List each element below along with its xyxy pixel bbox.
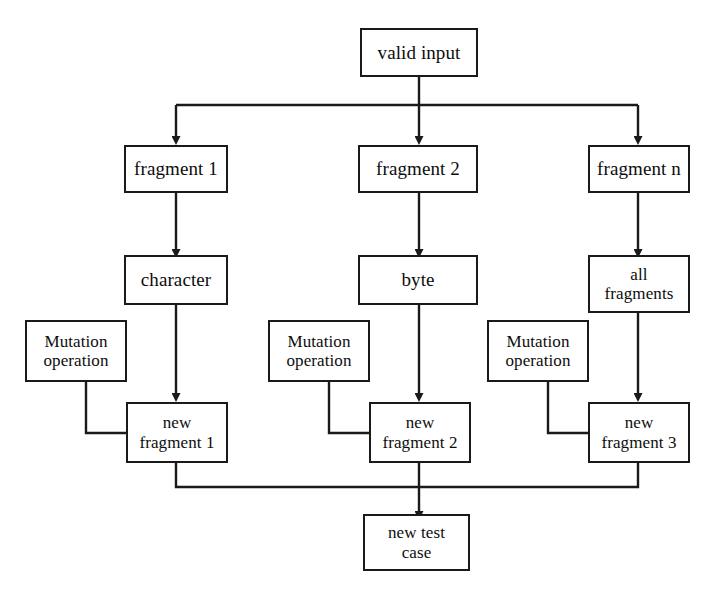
node-fragment-1-label: fragment 1	[130, 158, 222, 179]
node-character-label: character	[137, 269, 216, 290]
node-new-fragment-2-label-line1: new	[378, 413, 461, 432]
edge-mutation-1-to-new-fragment-1	[86, 382, 126, 433]
node-mutation-operation-2-label: Mutation operation	[278, 332, 359, 370]
node-new-fragment-2-label-line2: fragment 2	[378, 433, 461, 452]
node-mutation-operation-3-label: Mutation operation	[497, 332, 578, 370]
edge-new-fragment-1-to-collector	[176, 463, 419, 487]
node-all-fragments[interactable]: all fragments	[588, 255, 690, 313]
node-mutation-operation-1-label-line2: operation	[39, 351, 112, 370]
node-mutation-operation-3-label-line1: Mutation	[501, 332, 574, 351]
node-new-test-case-label: new test case	[380, 523, 453, 561]
flowchart-diagram: valid input fragment 1 fragment 2 fragme…	[0, 0, 714, 597]
node-mutation-operation-2-label-line2: operation	[282, 351, 355, 370]
node-new-fragment-1-label-line1: new	[135, 413, 218, 432]
node-valid-input[interactable]: valid input	[360, 28, 478, 77]
edge-new-fragment-3-to-collector	[419, 463, 638, 487]
node-new-fragment-2-label: new fragment 2	[374, 413, 465, 451]
node-new-fragment-3-label: new fragment 3	[593, 413, 684, 451]
node-valid-input-label: valid input	[374, 42, 465, 63]
node-fragment-1[interactable]: fragment 1	[124, 145, 228, 193]
node-new-test-case-label-line1: new test	[384, 523, 449, 542]
edge-mutation-2-to-new-fragment-2	[329, 382, 369, 433]
node-new-fragment-1-label-line2: fragment 1	[135, 433, 218, 452]
node-new-fragment-1-label: new fragment 1	[131, 413, 222, 451]
node-mutation-operation-2-label-line1: Mutation	[282, 332, 355, 351]
node-mutation-operation-3-label-line2: operation	[501, 351, 574, 370]
node-mutation-operation-3[interactable]: Mutation operation	[487, 320, 589, 382]
node-all-fragments-label-line1: all	[601, 265, 678, 284]
node-mutation-operation-1-label-line1: Mutation	[39, 332, 112, 351]
node-byte[interactable]: byte	[358, 255, 478, 305]
node-byte-label: byte	[397, 269, 438, 290]
node-fragment-n-label: fragment n	[593, 158, 685, 179]
node-mutation-operation-1[interactable]: Mutation operation	[25, 320, 127, 382]
node-new-test-case-label-line2: case	[384, 543, 449, 562]
node-mutation-operation-2[interactable]: Mutation operation	[268, 320, 370, 382]
node-new-fragment-3-label-line1: new	[597, 413, 680, 432]
node-mutation-operation-1-label: Mutation operation	[35, 332, 116, 370]
node-fragment-2[interactable]: fragment 2	[358, 145, 478, 193]
node-new-test-case[interactable]: new test case	[363, 514, 470, 571]
edge-mutation-3-to-new-fragment-3	[548, 382, 588, 433]
node-all-fragments-label-line2: fragments	[601, 284, 678, 303]
node-new-fragment-2[interactable]: new fragment 2	[369, 402, 471, 463]
node-new-fragment-3-label-line2: fragment 3	[597, 433, 680, 452]
node-new-fragment-3[interactable]: new fragment 3	[588, 402, 690, 463]
node-fragment-2-label: fragment 2	[372, 158, 464, 179]
node-new-fragment-1[interactable]: new fragment 1	[126, 402, 228, 463]
node-character[interactable]: character	[124, 255, 228, 305]
node-all-fragments-label: all fragments	[597, 265, 682, 303]
node-fragment-n[interactable]: fragment n	[588, 145, 690, 193]
